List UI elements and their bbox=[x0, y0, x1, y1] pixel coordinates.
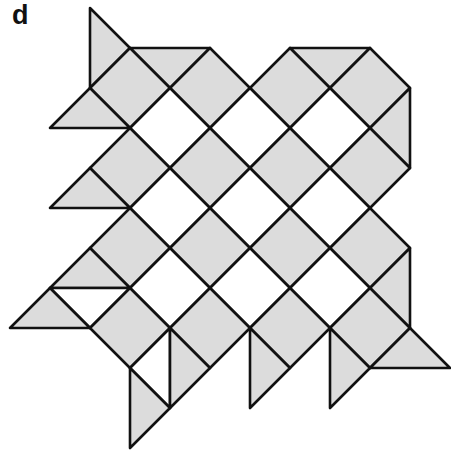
tiling-diagram bbox=[0, 0, 451, 453]
